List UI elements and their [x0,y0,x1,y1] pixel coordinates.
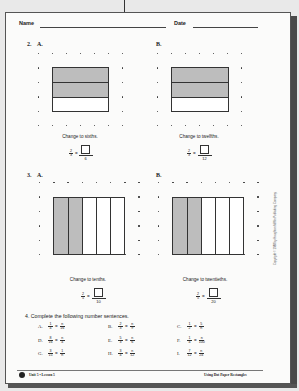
rectangle-2b [171,67,229,112]
column-divider [82,198,83,254]
number-sentence[interactable]: D.816=n4 [38,337,65,344]
problem-label: C. [177,324,185,329]
row-divider [53,97,108,98]
given-fraction-3a: 25 [81,293,85,300]
right-fraction: n16 [60,323,65,330]
problem-label: A. [38,324,46,329]
grid-dot [138,225,139,226]
problem-label: F. [177,338,185,343]
section-2a-label: A. [37,41,43,47]
footer-rule [17,370,263,371]
grid-dot [138,211,139,212]
column-divider [96,198,97,254]
number-sentence[interactable]: E.53=n6 [108,337,135,344]
right-fraction: n6 [130,337,135,344]
number-sentence[interactable]: C.12=5n [177,323,204,330]
answer-box-3b[interactable] [209,288,218,297]
left-fraction: 14 [187,337,192,344]
caption-2a: Change to sixths. [25,134,135,139]
answer-box-2a[interactable] [81,145,90,154]
name-label: Name [19,20,34,26]
grid-dot [257,225,258,226]
right-fraction: n9 [130,323,135,330]
number-sentence[interactable]: B.23=n9 [108,323,135,330]
caption-3a: Change to tenths. [33,277,143,282]
equals-sign: = [75,151,78,156]
problem-label: D. [38,338,46,343]
equals-sign: = [125,338,128,343]
answer-denominator-2b: 12 [198,155,212,161]
column-divider [110,198,111,254]
grid-dot [257,211,258,212]
page-shadow-bottom [8,384,297,388]
answer-denominator-2a: 6 [79,155,93,161]
problem-label: E. [108,338,116,343]
equals-sign: = [125,351,128,356]
section-3a-label: A. [37,172,43,178]
left-fraction: 34 [118,350,123,357]
equals-sign: = [55,351,58,356]
rectangle-3a [53,197,125,255]
column-divider [215,198,216,254]
section-2b-label: B. [156,41,162,47]
right-fraction: n4 [60,337,65,344]
row-divider [172,97,228,98]
left-fraction: 12 [187,323,192,330]
right-fraction: n12 [130,350,135,357]
answer-denominator-3b: 20 [207,298,221,304]
section-3b-label: B. [156,172,162,178]
row-divider [172,82,228,83]
section-3-number: 3. [27,172,32,178]
footer-title: Using Dot Paper Rectangles [204,373,247,377]
number-sentence[interactable]: H.34=n12 [108,350,135,357]
rectangle-2a [52,67,109,112]
footer-unit-lesson: Unit 5 • Lesson 5 [29,373,55,377]
row-divider [53,82,108,83]
answer-box-3a[interactable] [94,288,103,297]
left-fraction: 53 [118,337,123,344]
grid-dot [257,240,258,241]
right-fraction: 1n [60,350,65,357]
equals-sign: = [202,294,205,299]
given-fraction-2b: 23 [187,150,191,157]
caption-3b: Change to twentieths. [150,277,260,282]
equals-sign: = [194,324,197,329]
number-sentence[interactable]: F.14=n100 [177,337,205,344]
column-divider [68,198,69,254]
number-sentence[interactable]: G.315=1n [38,350,65,357]
number-sentence[interactable]: I.712=n24 [177,350,204,357]
rectangle-3b [172,197,244,255]
equals-sign: = [194,338,197,343]
equals-sign: = [55,338,58,343]
unit-badge-icon [19,372,25,378]
equals-sign: = [55,324,58,329]
equals-sign: = [193,151,196,156]
section-4-instructions: 4. Complete the following number sentenc… [25,313,129,319]
left-fraction: 23 [118,323,123,330]
given-fraction-2a: 23 [69,150,73,157]
left-fraction: 816 [48,337,53,344]
caption-2b: Change to twelfths. [144,134,254,139]
left-fraction: 315 [48,350,53,357]
left-fraction: 14 [48,323,53,330]
given-fraction-3b: 25 [196,293,200,300]
right-fraction: n100 [199,337,205,344]
equals-sign: = [87,294,90,299]
name-line[interactable] [40,27,166,28]
answer-box-2b[interactable] [200,145,209,154]
equals-sign: = [125,324,128,329]
date-label: Date [174,20,186,26]
problem-label: H. [108,351,116,356]
page-shadow-right [291,16,297,386]
grid-dot [138,196,139,197]
column-divider [229,198,230,254]
number-sentence[interactable]: A.14=n16 [38,323,65,330]
date-line[interactable] [193,27,258,28]
column-divider [201,198,202,254]
grid-dot [138,240,139,241]
section-2-number: 2. [27,41,32,47]
answer-denominator-3a: 10 [92,298,106,304]
grid-dot [257,196,258,197]
problem-label: B. [108,324,116,329]
equals-sign: = [194,351,197,356]
